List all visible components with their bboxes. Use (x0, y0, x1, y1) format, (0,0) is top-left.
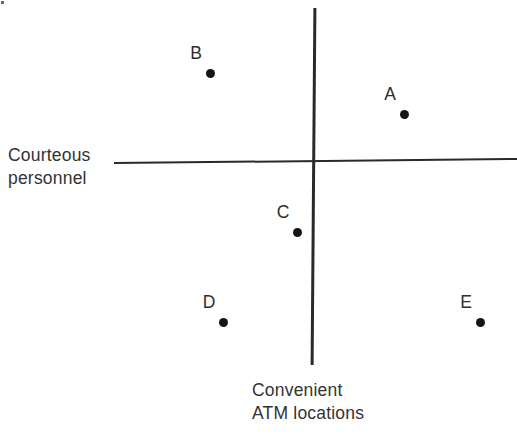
data-point-c-dot (293, 228, 302, 237)
y-axis-label-line2: ATM locations (252, 402, 364, 425)
data-point-a-dot (400, 110, 409, 119)
scan-speck-artifact (1, 1, 4, 4)
data-point-b-dot (206, 69, 215, 78)
x-axis-label-line2: personnel (8, 167, 91, 190)
data-point-d-label: D (203, 292, 216, 313)
perceptual-map: Courteous personnel Convenient ATM locat… (0, 0, 517, 437)
x-axis-label-line1: Courteous (8, 144, 91, 167)
vertical-axis-line (311, 8, 316, 365)
data-point-e-label: E (460, 292, 472, 313)
y-axis-label-line1: Convenient (252, 379, 364, 402)
data-point-e-dot (476, 318, 485, 327)
x-axis-label: Courteous personnel (8, 144, 91, 190)
horizontal-axis-line (114, 158, 517, 164)
data-point-b-label: B (190, 43, 202, 64)
data-point-d-dot (219, 318, 228, 327)
data-point-a-label: A (384, 84, 396, 105)
y-axis-label: Convenient ATM locations (252, 379, 364, 425)
data-point-c-label: C (277, 202, 290, 223)
